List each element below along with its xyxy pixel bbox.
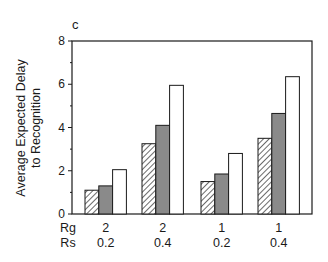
y-tick-label: 4 [58, 121, 65, 135]
bar-white [229, 153, 243, 214]
row-label-rg: Rg [60, 221, 76, 235]
plot-area: 02468 [58, 34, 312, 221]
row-label-rs: Rs [60, 236, 75, 250]
bar-grey [272, 113, 286, 214]
x-label-rs: 0.4 [270, 236, 287, 250]
x-label-rg: 2 [102, 221, 109, 235]
x-label-rg: 1 [218, 221, 225, 235]
bar-white [113, 170, 127, 214]
x-axis-labels: 20.220.410.210.4RgRs [60, 221, 287, 250]
y-axis-label-line-2: to Recognition [29, 88, 43, 168]
y-axis-label: Average Expected Delay to Recognition [14, 59, 43, 197]
bar-hatched [258, 138, 272, 214]
bar-hatched [85, 190, 99, 214]
x-label-rs: 0.4 [154, 236, 171, 250]
bar-hatched [142, 144, 156, 214]
y-tick-label: 2 [58, 164, 65, 178]
y-tick-label: 6 [58, 77, 65, 91]
bar-grey [215, 174, 229, 214]
x-label-rg: 1 [275, 221, 282, 235]
y-tick-label: 0 [58, 207, 65, 221]
bar-white [286, 77, 300, 214]
bar-grey [99, 186, 113, 214]
panel-label: c [72, 17, 79, 32]
bar-hatched [201, 182, 215, 214]
y-axis-label-line-1: Average Expected Delay [14, 59, 28, 197]
x-label-rs: 0.2 [97, 236, 114, 250]
x-label-rg: 2 [159, 221, 166, 235]
x-label-rs: 0.2 [213, 236, 230, 250]
y-tick-label: 8 [58, 34, 65, 48]
bar-white [170, 85, 184, 214]
bar-grey [156, 125, 170, 214]
bar-chart: c Average Expected Delay to Recognition … [0, 0, 328, 262]
